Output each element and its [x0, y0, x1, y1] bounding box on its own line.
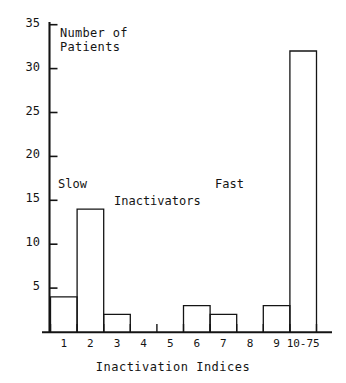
histogram-bar: [290, 51, 317, 332]
group-label-fast: Fast: [215, 178, 244, 192]
y-tick-label: 30: [14, 61, 40, 75]
y-tick-label: 5: [14, 280, 40, 294]
x-tick-label: 10-75: [273, 338, 333, 351]
y-tick-label: 35: [14, 17, 40, 31]
y-tick-label: 25: [14, 105, 40, 119]
group-label-slow: Slow: [58, 178, 87, 192]
x-axis-title: Inactivation Indices: [0, 361, 346, 375]
y-tick-label: 10: [14, 236, 40, 250]
histogram-chart: 5101520253035 12345678910-75 Number of P…: [0, 0, 346, 383]
histogram-bar: [77, 209, 104, 332]
y-axis-title-line1: Number of: [60, 27, 128, 41]
group-label-inactivators: Inactivators: [114, 195, 201, 209]
y-tick-label: 20: [14, 148, 40, 162]
histogram-bar: [104, 314, 131, 332]
histogram-bar: [263, 306, 290, 332]
y-axis-ticks: [50, 25, 58, 288]
histogram-bar: [51, 297, 78, 332]
y-axis-title-line2: Patients: [60, 41, 120, 55]
histogram-bars: [51, 51, 317, 332]
chart-canvas: [0, 0, 346, 383]
y-tick-label: 15: [14, 192, 40, 206]
histogram-bar: [184, 306, 211, 332]
histogram-bar: [210, 314, 237, 332]
